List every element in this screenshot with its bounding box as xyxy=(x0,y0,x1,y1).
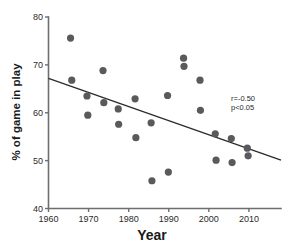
data-point xyxy=(196,77,203,84)
data-point xyxy=(212,157,219,164)
data-point xyxy=(197,107,204,114)
data-point xyxy=(148,119,155,126)
x-tick-label: 1960 xyxy=(38,214,58,224)
data-point xyxy=(212,130,219,137)
data-point xyxy=(131,95,138,102)
y-tick-label: 60 xyxy=(33,108,43,118)
data-point xyxy=(180,55,187,62)
x-tick-label: 2000 xyxy=(199,214,219,224)
data-point xyxy=(228,135,235,142)
data-point xyxy=(244,145,251,152)
y-tick-label: 40 xyxy=(33,204,43,214)
pvalue-annotation: p<0.05 xyxy=(231,103,254,112)
chart-canvas: 4050607080196019701980199020002010 Year … xyxy=(0,0,300,250)
axis-ticks xyxy=(45,17,249,212)
axis-tick-labels: 4050607080196019701980199020002010 xyxy=(33,12,259,223)
data-point xyxy=(67,34,74,41)
data-point xyxy=(115,105,122,112)
data-point xyxy=(165,169,172,176)
x-tick-label: 1970 xyxy=(79,214,99,224)
y-tick-label: 80 xyxy=(33,12,43,22)
data-point xyxy=(99,67,106,74)
data-point xyxy=(83,92,90,99)
y-tick-label: 70 xyxy=(33,60,43,70)
data-point xyxy=(115,121,122,128)
data-point xyxy=(132,134,139,141)
x-tick-label: 2010 xyxy=(239,214,259,224)
data-point xyxy=(180,63,187,70)
data-points xyxy=(67,34,252,184)
data-point xyxy=(100,99,107,106)
y-axis-title: % of game in play xyxy=(10,63,22,161)
axis-spines xyxy=(49,17,282,209)
x-tick-label: 1980 xyxy=(119,214,139,224)
axes xyxy=(49,17,282,209)
scatter-chart-figure: 4050607080196019701980199020002010 Year … xyxy=(0,0,300,250)
correlation-annotation: r=-0.50 xyxy=(231,94,255,103)
x-axis-title: Year xyxy=(137,227,167,243)
data-point xyxy=(245,152,252,159)
data-point xyxy=(228,159,235,166)
data-point xyxy=(84,112,91,119)
data-point xyxy=(68,77,75,84)
data-point xyxy=(148,177,155,184)
data-point xyxy=(164,92,171,99)
y-tick-label: 50 xyxy=(33,156,43,166)
x-tick-label: 1990 xyxy=(159,214,179,224)
